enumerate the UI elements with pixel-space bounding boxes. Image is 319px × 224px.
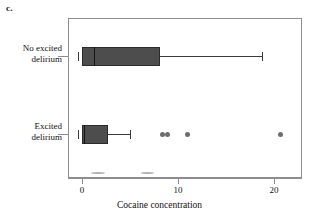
y-category-label-line1: No excited bbox=[4, 43, 62, 54]
x-tick-label-2: 20 bbox=[262, 185, 286, 195]
median-line bbox=[84, 125, 85, 144]
y-category-label-line2: delirium bbox=[4, 54, 62, 65]
box-excited-delirium bbox=[82, 125, 108, 144]
scan-artifact bbox=[91, 172, 105, 174]
plot-area-frame bbox=[68, 18, 302, 178]
whisker-cap-low bbox=[78, 52, 79, 61]
x-tick-mark-0 bbox=[82, 178, 83, 184]
whisker-cap-low bbox=[78, 130, 79, 139]
median-line bbox=[94, 47, 95, 66]
whisker-high bbox=[160, 56, 262, 57]
panel-letter: c. bbox=[6, 3, 13, 13]
x-axis-title: Cocaine concentration bbox=[0, 200, 319, 210]
y-tick-mark-0 bbox=[58, 56, 68, 57]
y-category-label-no-excited-delirium: No excited delirium bbox=[4, 43, 62, 65]
x-tick-mark-1 bbox=[178, 178, 179, 184]
y-category-label-line2: delirium bbox=[4, 132, 62, 143]
y-tick-mark-1 bbox=[58, 134, 68, 135]
boxplot-figure: c. No excited delirium Excited delirium … bbox=[0, 0, 319, 224]
y-category-label-line1: Excited bbox=[4, 121, 62, 132]
whisker-cap-high bbox=[262, 52, 263, 61]
x-tick-label-1: 10 bbox=[166, 185, 190, 195]
x-tick-mark-2 bbox=[274, 178, 275, 184]
outlier-point bbox=[185, 132, 190, 137]
outlier-point bbox=[165, 132, 170, 137]
whisker-cap-high bbox=[130, 130, 131, 139]
scan-artifact bbox=[141, 172, 154, 174]
y-category-label-excited-delirium: Excited delirium bbox=[4, 121, 62, 143]
x-tick-label-0: 0 bbox=[70, 185, 94, 195]
outlier-point bbox=[278, 132, 283, 137]
whisker-high bbox=[108, 134, 130, 135]
x-axis-line bbox=[68, 178, 302, 179]
